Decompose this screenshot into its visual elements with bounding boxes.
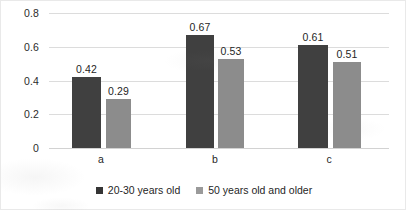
bar-b-50-plus (218, 59, 244, 148)
plot-area: 0.42 0.29 0.67 0.53 0.61 0.51 (49, 13, 389, 148)
x-tick-label-c: c (326, 153, 331, 165)
gridline-0.8 (49, 13, 389, 14)
legend-item-20-30[interactable]: 20-30 years old (96, 185, 180, 196)
bar-label-a-50-plus: 0.29 (103, 85, 134, 97)
gridline-0 (49, 148, 389, 149)
bar-label-c-50-plus: 0.51 (331, 48, 363, 60)
bar-chart: 0 0.2 0.4 0.6 0.8 0.42 0.29 0.67 0.53 0.… (0, 0, 406, 210)
x-tick-label-a: a (98, 153, 104, 165)
bar-label-b-20-30: 0.67 (184, 21, 216, 33)
y-tick-label-2: 0.4 (24, 75, 39, 87)
legend-swatch-icon-20-30 (96, 187, 103, 194)
legend-swatch-icon-50-plus (196, 187, 203, 194)
bar-b-20-30 (186, 35, 214, 148)
bar-label-c-20-30: 0.61 (297, 31, 329, 43)
x-tick-label-b: b (212, 153, 218, 165)
bar-c-20-30 (298, 45, 328, 148)
bar-label-a-20-30: 0.42 (72, 63, 101, 75)
y-axis: 0 0.2 0.4 0.6 0.8 (1, 1, 45, 210)
y-tick-label-0: 0 (33, 142, 39, 154)
bar-a-50-plus (106, 99, 131, 148)
x-axis: a b c (49, 153, 389, 171)
y-tick-label-4: 0.8 (24, 7, 39, 19)
legend-label-50-plus: 50 years old and older (208, 185, 312, 196)
y-tick-label-1: 0.2 (24, 108, 39, 120)
chart-legend: 20-30 years old 50 years old and older (1, 185, 406, 196)
bar-c-50-plus (333, 62, 361, 148)
legend-label-20-30: 20-30 years old (108, 185, 180, 196)
bar-a-20-30 (72, 77, 101, 148)
bar-label-b-50-plus: 0.53 (215, 45, 247, 57)
y-tick-label-3: 0.6 (24, 41, 39, 53)
legend-item-50-plus[interactable]: 50 years old and older (196, 185, 312, 196)
